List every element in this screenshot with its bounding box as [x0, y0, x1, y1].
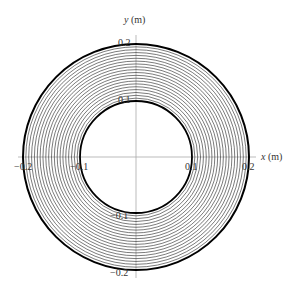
y-axis-title: y (m) [124, 15, 145, 25]
plot-canvas [0, 0, 296, 291]
x-axis-unit: (m) [268, 151, 282, 162]
ring-contour-diagram: y (m) x (m) −0.2 −0.1 0.1 0.2 0.2 0.1 −0… [0, 0, 296, 291]
x-tick-neg-0-1: −0.1 [70, 162, 88, 172]
x-tick-neg-0-2: −0.2 [14, 162, 32, 172]
y-tick-0-1: 0.1 [118, 95, 131, 105]
y-tick-0-2: 0.2 [118, 38, 131, 48]
x-tick-0-2: 0.2 [242, 162, 255, 172]
y-axis-var: y [124, 14, 128, 25]
x-axis-title: x (m) [261, 152, 282, 162]
y-tick-neg-0-1: −0.1 [110, 211, 128, 221]
x-axis-var: x [261, 151, 265, 162]
x-tick-0-1: 0.1 [185, 162, 198, 172]
y-axis-unit: (m) [131, 14, 145, 25]
y-tick-neg-0-2: −0.2 [110, 268, 128, 278]
